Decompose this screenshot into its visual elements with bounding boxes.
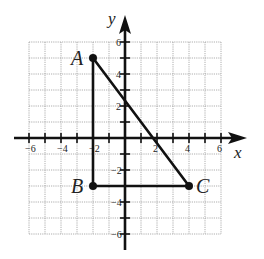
x-tick-label: −6 (25, 143, 36, 154)
x-tick-label: 6 (217, 143, 222, 154)
y-tick-label: −6 (111, 229, 122, 240)
x-tick-label: −2 (89, 143, 100, 154)
coordinate-plane: −6−4−2246642−2−4−6 ABC x y (0, 0, 264, 259)
y-tick-label: 2 (116, 101, 121, 112)
vertex-C-dot (185, 182, 193, 190)
x-tick-label: 4 (185, 143, 190, 154)
x-tick-label: −4 (57, 143, 68, 154)
vertex-A-label: A (69, 47, 84, 69)
y-tick-label: 6 (116, 37, 121, 48)
vertex-B-label: B (71, 175, 83, 197)
y-tick-label: 4 (116, 69, 121, 80)
y-tick-label: −2 (111, 165, 122, 176)
axes (14, 15, 247, 250)
x-axis-label: x (233, 143, 242, 162)
vertex-B-dot (89, 182, 97, 190)
vertex-A-dot (89, 54, 97, 62)
y-axis-label: y (106, 9, 116, 28)
vertex-C-label: C (196, 175, 210, 197)
y-tick-label: −4 (111, 197, 122, 208)
